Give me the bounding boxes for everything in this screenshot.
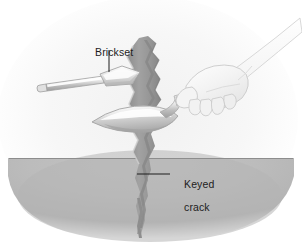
finger-2 bbox=[200, 99, 213, 116]
label-brickset-text: Brickset bbox=[95, 46, 133, 58]
brickset-striking-cap bbox=[37, 84, 47, 92]
label-keyed-crack-line2: crack bbox=[184, 201, 210, 213]
ground-shadow-pool bbox=[18, 150, 282, 242]
label-keyed-crack-line1: Keyed bbox=[184, 178, 214, 190]
label-keyed-crack: Keyed crack bbox=[172, 167, 214, 225]
illustration-canvas bbox=[0, 0, 302, 242]
illustration-figure: Brickset Keyed crack bbox=[0, 0, 302, 242]
finger-4 bbox=[224, 94, 236, 109]
label-brickset: Brickset bbox=[83, 35, 133, 70]
